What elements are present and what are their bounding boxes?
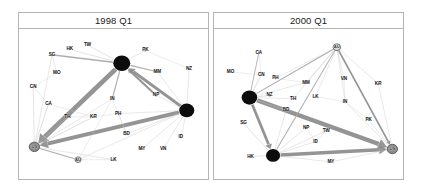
network-svg-2	[214, 29, 403, 179]
facet-title-1: 1998 Q1	[95, 16, 132, 26]
facet-panel-1: 1998 Q1 SGHKTWPKNZMMMOCNCAINNPTHKRPHBDID…	[18, 12, 209, 180]
network-figure: 1998 Q1 SGHKTWPKNZMMMOCNCAINNPTHKRPHBDID…	[0, 0, 422, 192]
network-canvas-2: CAAUMOCNPHMMVNKRNZTHLKINBDSGNPTWPKIDMYHK…	[213, 29, 404, 180]
network-canvas-1: SGHKTWPKNZMMMOCNCAINNPTHKRPHBDIDMYVNLKAU…	[18, 29, 209, 180]
facet-title-2: 2000 Q1	[290, 16, 327, 26]
network-svg-1	[19, 29, 208, 179]
facet-grid: 1998 Q1 SGHKTWPKNZMMMOCNCAINNPTHKRPHBDID…	[18, 12, 404, 180]
facet-panel-2: 2000 Q1 CAAUMOCNPHMMVNKRNZTHLKINBDSGNPTW…	[213, 12, 404, 180]
facet-strip-1: 1998 Q1	[18, 12, 209, 29]
facet-strip-2: 2000 Q1	[213, 12, 404, 29]
